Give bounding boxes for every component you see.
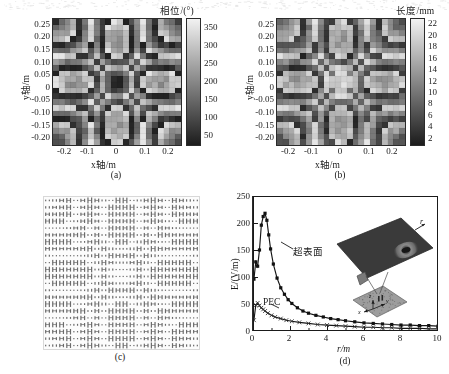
colorbar-tick-label: 18 xyxy=(428,41,437,51)
axis-tick-label: 0.25 xyxy=(238,19,274,29)
panel-a-colorbar-ticks: 35030025020015010050 xyxy=(202,18,228,144)
axis-tick-label: 10 xyxy=(426,333,448,343)
colorbar-tick-label: 2 xyxy=(428,133,433,143)
panel-d-y-axis-label: E/(V/m) xyxy=(230,258,240,290)
panel-a-x-axis-label: x轴/m xyxy=(91,157,116,171)
axis-tick-label: 0 xyxy=(241,333,263,343)
panel-a-y-axis-label: y轴/m xyxy=(18,75,32,100)
colorbar-tick-label: 22 xyxy=(428,18,437,28)
colorbar-tick-label: 20 xyxy=(428,30,437,40)
panel-b-colorbar-ticks: 222018161412108642 xyxy=(426,18,449,144)
axis-tick-label: 150 xyxy=(224,245,250,255)
colorbar-tick-label: 200 xyxy=(204,76,218,86)
panel-a-heatmap xyxy=(52,18,182,146)
panel-b-heatmap xyxy=(276,18,406,146)
axis-tick-label: 0.15 xyxy=(238,44,274,54)
colorbar-tick-label: 6 xyxy=(428,110,433,120)
axis-tick-label: 0.20 xyxy=(14,31,50,41)
axis-tick-label: -0.1 xyxy=(76,146,98,156)
axis-tick-label: 0 xyxy=(329,146,351,156)
axis-tick-label: -0.20 xyxy=(14,132,50,142)
colorbar-tick-label: 14 xyxy=(428,64,437,74)
panel-d-inset-label-r: r xyxy=(420,217,423,226)
axis-tick-label: 0.20 xyxy=(238,31,274,41)
axis-tick-label: 0 xyxy=(105,146,127,156)
colorbar-tick-label: 100 xyxy=(204,112,218,122)
axis-tick-label: 0.2 xyxy=(157,146,179,156)
panel-d-series-label-pec: PEC xyxy=(263,297,280,307)
axis-tick-label: -0.10 xyxy=(14,107,50,117)
colorbar-tick-label: 8 xyxy=(428,98,433,108)
axis-tick-label: 2 xyxy=(278,333,300,343)
axis-tick-label: 0.25 xyxy=(14,19,50,29)
panel-a-colorbar-title: 相位/(°) xyxy=(160,3,194,17)
axis-tick-label: -0.2 xyxy=(53,146,75,156)
axis-tick-label: 0.15 xyxy=(14,44,50,54)
panel-b-y-axis-label: y轴/m xyxy=(242,75,256,100)
axis-tick-label: -0.2 xyxy=(277,146,299,156)
panel-a-caption: (a) xyxy=(96,170,136,180)
colorbar-tick-label: 10 xyxy=(428,87,437,97)
colorbar-tick-label: 150 xyxy=(204,94,218,104)
axis-tick-label: -0.10 xyxy=(238,107,274,117)
axis-tick-label: 4 xyxy=(315,333,337,343)
panel-d-series-label-metasurface: 超表面 xyxy=(293,244,323,258)
axis-tick-label: 50 xyxy=(224,299,250,309)
panel-b-caption: (b) xyxy=(320,170,360,180)
figure-root: 相位/(°) 0.250.200.150.100.050-0.05-0.10-0… xyxy=(0,0,449,374)
colorbar-tick-label: 50 xyxy=(204,130,213,140)
panel-d-inset-schematic xyxy=(333,214,437,324)
panel-a-colorbar xyxy=(186,18,201,146)
axis-tick-label: 0.1 xyxy=(358,146,380,156)
axis-tick-label: -0.15 xyxy=(238,120,274,130)
axis-tick-label: 0.1 xyxy=(134,146,156,156)
axis-tick-label: -0.15 xyxy=(14,120,50,130)
axis-tick-label: 8 xyxy=(389,333,411,343)
panel-b-colorbar-title: 长度/mm xyxy=(396,3,434,17)
panel-b-x-axis-label: x轴/m xyxy=(315,157,340,171)
panel-c-unit-cell-array xyxy=(43,196,200,350)
axis-tick-label: 6 xyxy=(352,333,374,343)
colorbar-tick-label: 12 xyxy=(428,76,437,86)
panel-d-caption: (d) xyxy=(325,356,365,366)
colorbar-tick-label: 250 xyxy=(204,58,218,68)
axis-tick-label: -0.20 xyxy=(238,132,274,142)
axis-tick-label: 0.2 xyxy=(381,146,403,156)
axis-tick-label: -0.1 xyxy=(300,146,322,156)
axis-tick-label: 0.10 xyxy=(14,57,50,67)
panel-c-caption: (c) xyxy=(100,352,140,362)
colorbar-tick-label: 4 xyxy=(428,121,433,131)
colorbar-tick-label: 300 xyxy=(204,40,218,50)
axis-tick-label: 250 xyxy=(224,191,250,201)
axis-tick-label: 0.10 xyxy=(238,57,274,67)
scan-artifact xyxy=(0,0,449,10)
axis-tick-label: 200 xyxy=(224,218,250,228)
panel-d-x-axis-label: r/m xyxy=(337,344,350,354)
colorbar-tick-label: 16 xyxy=(428,53,437,63)
panel-b-colorbar xyxy=(410,18,425,146)
colorbar-tick-label: 350 xyxy=(204,22,218,32)
